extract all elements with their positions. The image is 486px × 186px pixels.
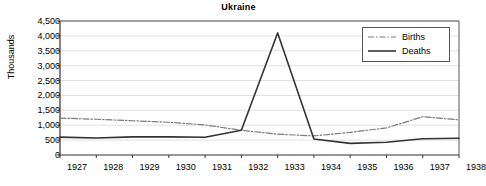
- x-axis-tick-label: 1929: [140, 162, 160, 172]
- chart-legend: Births Deaths: [362, 27, 450, 62]
- x-axis-tick-label: 1928: [103, 162, 123, 172]
- x-axis-tick-label: 1936: [393, 162, 413, 172]
- births-line-swatch-icon: [367, 32, 397, 42]
- x-axis-tick-label: 1934: [321, 162, 341, 172]
- legend-item-births[interactable]: Births: [367, 30, 445, 44]
- x-axis-tick-label: 1931: [212, 162, 232, 172]
- x-axis-tick-label: 1938: [466, 162, 486, 172]
- series-line-births: [60, 117, 459, 136]
- legend-item-deaths[interactable]: Deaths: [367, 44, 445, 58]
- deaths-line-swatch-icon: [367, 46, 397, 56]
- x-axis-tick-label: 1935: [357, 162, 377, 172]
- legend-label-births: Births: [402, 32, 425, 42]
- x-axis-tick-label: 1927: [67, 162, 87, 172]
- x-axis-tick-label: 1930: [176, 162, 196, 172]
- x-axis-tick-labels: 1927192819291930193119321933193419351936…: [60, 162, 460, 180]
- x-axis-tick-label: 1932: [248, 162, 268, 172]
- x-axis-tick-label: 1933: [285, 162, 305, 172]
- legend-label-deaths: Deaths: [402, 46, 431, 56]
- x-axis-tick-label: 1937: [430, 162, 450, 172]
